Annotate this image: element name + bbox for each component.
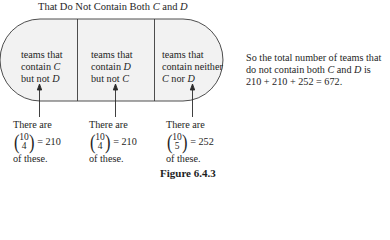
paren-left: ( — [167, 131, 172, 153]
binom-k: 4 — [22, 142, 27, 152]
region-line: teams that — [91, 49, 133, 61]
binomial: ( 104 ) = 210 — [13, 131, 61, 153]
region-neither: teams that contain neither C nor D — [162, 49, 223, 86]
summary-line: So the total number of teams that — [246, 52, 381, 64]
region-line: teams that — [162, 49, 223, 61]
binom-k: 4 — [98, 142, 103, 152]
summary-text: So the total number of teams that do not… — [246, 52, 381, 89]
count-2: There are ( 104 ) = 210 of these. — [89, 119, 137, 165]
paren-right: ) — [105, 131, 110, 153]
paren-left: ( — [90, 131, 95, 153]
binom-k: 5 — [175, 142, 180, 152]
paren-right: ) — [29, 131, 34, 153]
figure-caption: Figure 6.4.3 — [160, 167, 216, 179]
count-outro: of these. — [89, 153, 137, 165]
count-value: = 252 — [190, 136, 214, 148]
count-outro: of these. — [13, 153, 61, 165]
binomial: ( 105 ) = 252 — [166, 131, 214, 153]
var: D — [124, 61, 131, 72]
var: C — [162, 73, 169, 84]
region-line: contain — [91, 61, 124, 72]
var: D — [187, 73, 194, 84]
region-line: contain — [21, 61, 54, 72]
count-intro: There are — [89, 119, 137, 131]
region-line: contain neither — [162, 61, 223, 73]
region-line: but not — [91, 73, 122, 84]
var: C — [54, 61, 61, 72]
region-d-not-c: teams that contain D but not C — [91, 49, 133, 86]
paren-left: ( — [14, 131, 19, 153]
count-value: = 210 — [113, 136, 137, 148]
paren-right: ) — [182, 131, 187, 153]
binomial: ( 104 ) = 210 — [89, 131, 137, 153]
count-1: There are ( 104 ) = 210 of these. — [13, 119, 61, 165]
count-intro: There are — [13, 119, 61, 131]
count-intro: There are — [166, 119, 214, 131]
region-line: nor — [169, 73, 188, 84]
summary-line: and — [334, 64, 354, 75]
count-value: = 210 — [37, 136, 61, 148]
var: C — [122, 73, 129, 84]
summary-line: is — [361, 64, 370, 75]
region-line: teams that — [21, 49, 63, 61]
count-outro: of these. — [166, 153, 214, 165]
summary-line: 210 + 210 + 252 = 672. — [246, 76, 381, 88]
region-c-not-d: teams that contain C but not D — [21, 49, 63, 86]
count-3: There are ( 105 ) = 252 of these. — [166, 119, 214, 165]
summary-line: do not contain both — [246, 64, 328, 75]
var: D — [52, 73, 59, 84]
region-line: but not — [21, 73, 52, 84]
